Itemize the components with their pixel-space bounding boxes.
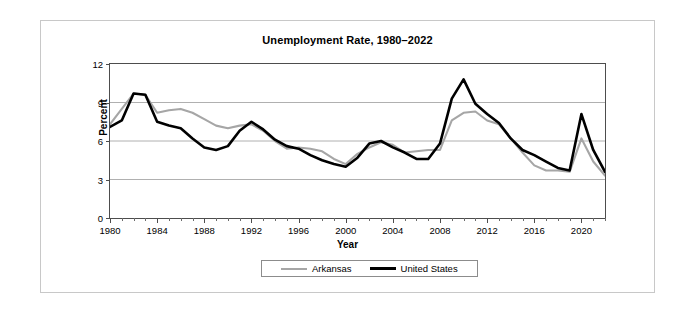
x-tick-minor — [405, 218, 406, 221]
x-tick-minor — [169, 218, 170, 221]
y-tick-label: 12 — [92, 59, 103, 70]
y-tick-mark — [106, 103, 110, 104]
x-tick-minor — [275, 218, 276, 221]
x-tick-major — [204, 218, 205, 223]
series-line-arkansas — [110, 94, 605, 176]
chart-title: Unemployment Rate, 1980–2022 — [41, 34, 654, 46]
chart-legend: Arkansas United States — [261, 260, 478, 277]
legend-item-united-states: United States — [370, 263, 458, 274]
legend-label-united-states: United States — [401, 263, 458, 274]
x-tick-label: 2012 — [477, 225, 498, 236]
x-tick-major — [487, 218, 488, 223]
x-tick-label: 2000 — [335, 225, 356, 236]
x-tick-major — [251, 218, 252, 223]
x-tick-label: 1988 — [194, 225, 215, 236]
x-tick-minor — [358, 218, 359, 221]
x-tick-label: 2008 — [429, 225, 450, 236]
x-tick-major — [440, 218, 441, 223]
x-tick-minor — [240, 218, 241, 221]
x-tick-major — [110, 218, 111, 223]
x-tick-minor — [452, 218, 453, 221]
x-tick-major — [393, 218, 394, 223]
series-layer — [110, 79, 605, 175]
x-tick-minor — [593, 218, 594, 221]
x-tick-label: 2004 — [382, 225, 403, 236]
x-tick-major — [299, 218, 300, 223]
x-tick-minor — [369, 218, 370, 221]
x-axis-label: Year — [41, 239, 654, 250]
series-line-united-states — [110, 79, 605, 171]
legend-swatch-arkansas — [281, 268, 307, 270]
x-tick-minor — [134, 218, 135, 221]
x-tick-minor — [310, 218, 311, 221]
y-tick-label: 9 — [98, 97, 103, 108]
y-tick-mark — [106, 64, 110, 65]
x-tick-minor — [122, 218, 123, 221]
x-tick-label: 2020 — [571, 225, 592, 236]
legend-label-arkansas: Arkansas — [312, 263, 352, 274]
x-tick-minor — [570, 218, 571, 221]
x-tick-minor — [428, 218, 429, 221]
x-tick-minor — [546, 218, 547, 221]
x-tick-minor — [287, 218, 288, 221]
x-tick-minor — [558, 218, 559, 221]
x-tick-minor — [216, 218, 217, 221]
x-tick-label: 1996 — [288, 225, 309, 236]
x-tick-minor — [322, 218, 323, 221]
figure-frame: Unemployment Rate, 1980–2022 Percent 036… — [40, 20, 655, 293]
x-tick-major — [581, 218, 582, 223]
x-tick-minor — [511, 218, 512, 221]
x-tick-label: 1984 — [147, 225, 168, 236]
y-tick-label: 3 — [98, 174, 103, 185]
x-tick-minor — [381, 218, 382, 221]
x-tick-label: 1980 — [99, 225, 120, 236]
x-tick-label: 1992 — [241, 225, 262, 236]
legend-item-arkansas: Arkansas — [281, 263, 352, 274]
x-tick-minor — [605, 218, 606, 221]
plot-svg — [110, 64, 605, 218]
y-tick-mark — [106, 141, 110, 142]
x-tick-minor — [145, 218, 146, 221]
x-tick-minor — [499, 218, 500, 221]
y-tick-label: 6 — [98, 136, 103, 147]
x-tick-minor — [263, 218, 264, 221]
gridlines — [110, 103, 605, 180]
x-tick-major — [157, 218, 158, 223]
x-tick-minor — [181, 218, 182, 221]
plot-area: Percent 036912 1980198419881992199620002… — [109, 63, 606, 219]
y-tick-mark — [106, 180, 110, 181]
x-tick-minor — [523, 218, 524, 221]
y-tick-label: 0 — [98, 213, 103, 224]
x-tick-minor — [228, 218, 229, 221]
x-tick-minor — [475, 218, 476, 221]
legend-swatch-united-states — [370, 267, 396, 270]
x-tick-major — [346, 218, 347, 223]
x-tick-label: 2016 — [524, 225, 545, 236]
x-tick-minor — [193, 218, 194, 221]
x-tick-minor — [416, 218, 417, 221]
x-tick-minor — [334, 218, 335, 221]
y-axis-label: Percent — [98, 73, 109, 163]
x-tick-major — [534, 218, 535, 223]
x-tick-minor — [464, 218, 465, 221]
